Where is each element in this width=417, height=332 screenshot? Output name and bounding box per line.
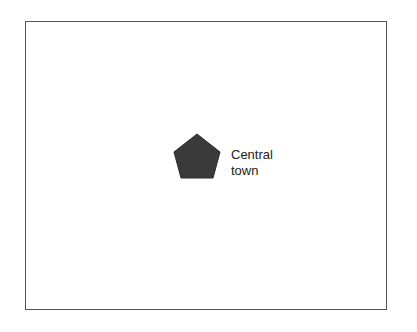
central-town-pentagon-icon bbox=[0, 0, 417, 332]
central-town-label: Central town bbox=[231, 147, 273, 179]
central-town-label-line2: town bbox=[231, 163, 273, 179]
central-town-label-line1: Central bbox=[231, 147, 273, 163]
